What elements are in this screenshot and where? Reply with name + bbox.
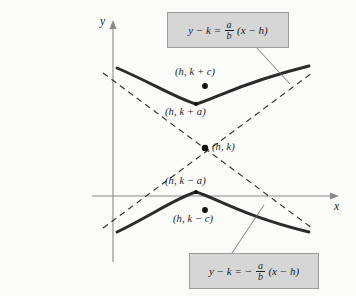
eqn-top-denominator: b bbox=[225, 30, 234, 41]
x-axis-label: x bbox=[334, 200, 339, 212]
eqn-bottom-denominator: b bbox=[256, 271, 265, 282]
label-upper-focus: (h, k + c) bbox=[175, 66, 215, 77]
eqn-top-lhs: y − k = bbox=[188, 25, 221, 36]
callout-leader-lines bbox=[232, 47, 290, 253]
eqn-bottom-numerator: a bbox=[256, 261, 265, 271]
eqn-bottom-lhs: y − k = bbox=[209, 266, 242, 277]
callout-asymptote-negative: y − k = − a b (x − h) bbox=[189, 253, 319, 289]
eqn-top-numerator: a bbox=[225, 20, 234, 30]
eqn-top-fraction: a b bbox=[225, 20, 234, 41]
eqn-top-rhs: (x − h) bbox=[237, 25, 268, 36]
eqn-bottom-fraction: a b bbox=[256, 261, 265, 282]
point-lower-vertex bbox=[194, 190, 198, 194]
eqn-bottom-rhs: (x − h) bbox=[268, 266, 299, 277]
label-upper-vertex: (h, k + a) bbox=[165, 106, 206, 117]
eqn-bottom-sign: − bbox=[244, 265, 252, 277]
point-upper-focus bbox=[202, 83, 208, 89]
y-axis-label: y bbox=[100, 15, 105, 27]
equation-positive-asymptote: y − k = a b (x − h) bbox=[188, 20, 268, 41]
label-lower-focus: (h, k − c) bbox=[173, 213, 213, 224]
hyperbola-figure: y x (h, k + c) (h, k + a) (h, k) (h, k −… bbox=[0, 0, 356, 296]
label-lower-vertex: (h, k − a) bbox=[165, 175, 206, 186]
point-center bbox=[202, 145, 208, 151]
lower-branch bbox=[117, 192, 309, 232]
asymptotes-group bbox=[103, 73, 312, 228]
y-axis-arrow bbox=[109, 20, 116, 29]
label-center: (h, k) bbox=[212, 141, 235, 152]
x-axis-arrow bbox=[330, 192, 339, 199]
equation-negative-asymptote: y − k = − a b (x − h) bbox=[209, 261, 299, 282]
callout-asymptote-positive: y − k = a b (x − h) bbox=[167, 12, 289, 48]
